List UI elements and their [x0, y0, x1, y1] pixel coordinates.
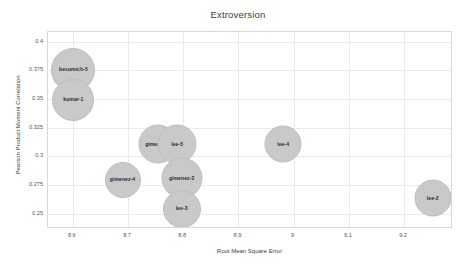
data-point-label: gimenez-4 — [110, 177, 135, 182]
gridline-horizontal — [48, 42, 451, 43]
data-point-label: gimenez-2 — [169, 175, 194, 180]
x-tick-label: 9.1 — [344, 232, 352, 238]
y-tick-label: 0.275 — [29, 181, 43, 187]
chart-title: Extroversion — [0, 9, 476, 20]
gridline-horizontal — [48, 156, 451, 157]
data-point-bubble[interactable]: lee-2 — [414, 179, 451, 216]
gridline-vertical — [349, 32, 350, 227]
y-tick-label: 0.25 — [32, 210, 43, 216]
x-axis-title: Root Mean Square Error — [47, 248, 452, 254]
data-point-bubble[interactable]: kumar-1 — [52, 79, 94, 121]
gridline-vertical — [404, 32, 405, 227]
gridline-horizontal — [48, 99, 451, 100]
data-point-label: lee-3 — [176, 206, 188, 211]
x-tick-label: 8.7 — [123, 232, 131, 238]
plot-area: besumich-5kumar-1gimenez-1lee-5gimenez-4… — [47, 31, 452, 228]
data-point-label: lee-4 — [277, 142, 289, 147]
y-axis-ticks: 0.40.3750.350.3250.30.2750.25 — [0, 31, 43, 228]
gridline-horizontal — [48, 214, 451, 215]
y-tick-label: 0.3 — [35, 152, 43, 158]
gridline-horizontal — [48, 128, 451, 129]
gridline-vertical — [238, 32, 239, 227]
gridline-horizontal — [48, 70, 451, 71]
y-tick-label: 0.4 — [35, 38, 43, 44]
data-point-bubble[interactable]: lee-3 — [163, 190, 201, 228]
chart-container: Extroversion Pearson Product Moment Corr… — [0, 0, 476, 273]
x-tick-label: 8.6 — [68, 232, 76, 238]
x-tick-label: 8.9 — [234, 232, 242, 238]
data-point-bubble[interactable]: lee-4 — [265, 126, 302, 163]
data-point-label: kumar-1 — [63, 97, 83, 102]
x-tick-label: 8.8 — [178, 232, 186, 238]
y-tick-label: 0.375 — [29, 66, 43, 72]
y-tick-label: 0.35 — [32, 95, 43, 101]
x-tick-label: 9 — [291, 232, 294, 238]
y-tick-label: 0.325 — [29, 124, 43, 130]
data-point-label: besumich-5 — [59, 67, 88, 72]
data-point-label: lee-5 — [171, 142, 183, 147]
data-point-bubble[interactable]: gimenez-4 — [105, 162, 141, 198]
x-tick-label: 9.2 — [399, 232, 407, 238]
x-axis-ticks: 8.68.78.88.999.19.2 — [47, 229, 452, 243]
gridline-vertical — [128, 32, 129, 227]
data-point-label: lee-2 — [427, 195, 439, 200]
